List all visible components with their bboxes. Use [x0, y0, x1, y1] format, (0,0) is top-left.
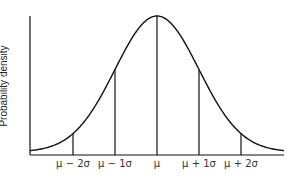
tick-label-mean: μ	[154, 158, 160, 169]
sigma-markers	[73, 16, 241, 155]
tick-label-plus-2-sigma: μ + 2σ	[224, 158, 258, 169]
normal-distribution-chart	[0, 0, 297, 179]
y-axis-label-text: Probability density	[0, 45, 9, 126]
tick-label-minus-2-sigma: μ − 2σ	[56, 158, 90, 169]
tick-label-plus-1-sigma: μ + 1σ	[182, 158, 216, 169]
tick-label-minus-1-sigma: μ − 1σ	[98, 158, 132, 169]
